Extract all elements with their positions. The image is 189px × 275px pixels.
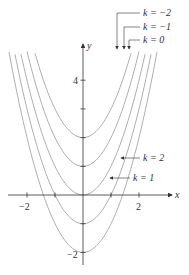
tick-label-x-2: 2: [136, 201, 141, 212]
tick-label-y-neg2: −2: [67, 249, 78, 260]
label-k-0: k = 0: [143, 34, 164, 45]
label-k-1: k = 1: [133, 172, 154, 183]
label-k-neg1: k = −1: [143, 21, 171, 32]
tick-label-y-4: 4: [73, 75, 78, 86]
x-axis-label: x: [174, 189, 180, 200]
y-axis-label: y: [86, 40, 92, 51]
label-k-2: k = 2: [143, 152, 164, 163]
tick-label-x-neg2: −2: [19, 201, 30, 212]
parabola-family-chart: x y −2 2 4 −2 k = −2 k = −1 k = 0 k = 2 …: [0, 0, 189, 275]
label-k-neg2: k = −2: [143, 7, 171, 18]
